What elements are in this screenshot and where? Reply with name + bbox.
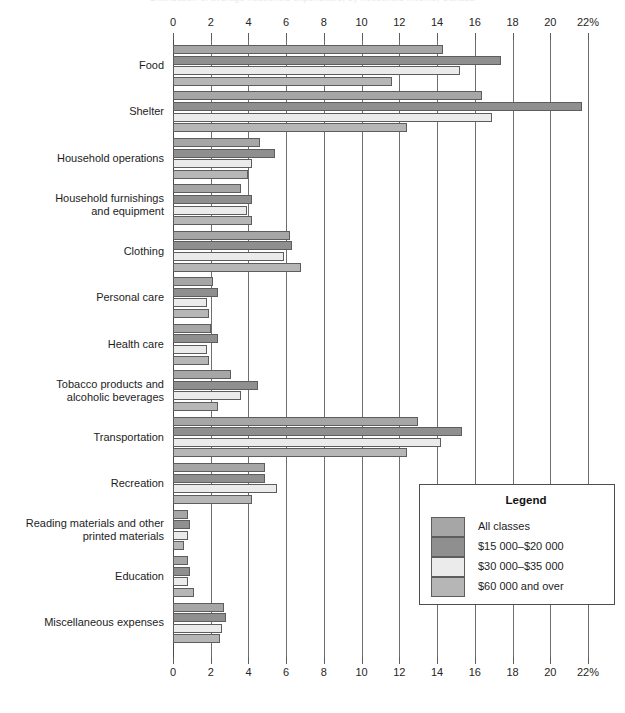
tick-mark-20 — [550, 657, 551, 664]
bar — [173, 463, 265, 472]
bar — [173, 263, 301, 272]
bar-group — [173, 277, 588, 323]
bar-group — [173, 138, 588, 184]
category-label-line: alcoholic beverages — [5, 391, 164, 404]
bar — [173, 324, 211, 333]
bar — [173, 624, 222, 633]
category-label-line: printed materials — [5, 530, 164, 543]
bar — [173, 427, 462, 436]
tick-mark-8 — [324, 657, 325, 664]
bar — [173, 149, 275, 158]
bar — [173, 402, 218, 411]
bar — [173, 113, 492, 122]
bar-group — [173, 603, 588, 649]
bar — [173, 381, 258, 390]
bar-group — [173, 91, 588, 137]
tick-mark-18 — [513, 657, 514, 664]
legend-label: $30 000–$35 000 — [478, 560, 564, 572]
category-label: Shelter — [5, 105, 173, 118]
category-label: Personal care — [5, 291, 173, 304]
bar — [173, 417, 418, 426]
tick-label: 20 — [530, 16, 570, 28]
category-label-line: Miscellaneous expenses — [5, 616, 164, 629]
category-label-line: and equipment — [5, 205, 164, 218]
tick-mark-10 — [362, 657, 363, 664]
bar — [173, 391, 241, 400]
legend-label: $60 000 and over — [478, 580, 564, 592]
bar — [173, 309, 209, 318]
tick-label: 12 — [379, 16, 419, 28]
tick-label: 18 — [493, 666, 533, 678]
bar — [173, 541, 184, 550]
bar — [173, 91, 482, 100]
tick-mark-16 — [475, 33, 476, 40]
tick-label: 12 — [379, 666, 419, 678]
chart-page: Distribution of average household expend… — [0, 0, 625, 713]
bar — [173, 370, 231, 379]
bar-group — [173, 370, 588, 416]
category-label-line: Personal care — [5, 291, 164, 304]
bar — [173, 66, 460, 75]
top-axis: 0246810121416182022% — [173, 16, 588, 40]
bar — [173, 170, 248, 179]
tick-label: 0 — [153, 16, 193, 28]
bar-group — [173, 184, 588, 230]
bar — [173, 345, 207, 354]
bar — [173, 77, 392, 86]
legend-label: $15 000–$20 000 — [478, 540, 564, 552]
category-label: Education — [5, 570, 173, 583]
legend-box: Legend All classes$15 000–$20 000$30 000… — [419, 484, 615, 605]
bar — [173, 159, 252, 168]
category-label: Tobacco products andalcoholic beverages — [5, 378, 173, 404]
category-label: Reading materials and otherprinted mater… — [5, 517, 173, 543]
tick-mark-6 — [286, 33, 287, 40]
tick-label: 10 — [342, 666, 382, 678]
tick-mark-8 — [324, 33, 325, 40]
legend-title: Legend — [420, 494, 614, 506]
tick-mark-2 — [211, 33, 212, 40]
tick-mark-12 — [399, 657, 400, 664]
bar — [173, 484, 277, 493]
tick-label: 2 — [191, 16, 231, 28]
bar — [173, 102, 582, 111]
bottom-axis: 0246810121416182022% — [173, 657, 588, 681]
bar — [173, 438, 441, 447]
tick-label: 4 — [228, 666, 268, 678]
tick-label: 22% — [568, 16, 608, 28]
category-label-line: Reading materials and other — [5, 517, 164, 530]
tick-mark-14 — [437, 33, 438, 40]
bar — [173, 603, 224, 612]
bar — [173, 520, 190, 529]
tick-mark-4 — [248, 33, 249, 40]
tick-label: 0 — [153, 666, 193, 678]
category-label: Food — [5, 59, 173, 72]
category-label: Household operations — [5, 152, 173, 165]
tick-label: 6 — [266, 666, 306, 678]
tick-label: 16 — [455, 666, 495, 678]
legend-swatch — [431, 577, 465, 597]
tick-label: 16 — [455, 16, 495, 28]
bar-group — [173, 231, 588, 277]
category-label: Clothing — [5, 245, 173, 258]
tick-mark-18 — [513, 33, 514, 40]
bar — [173, 588, 194, 597]
tick-label: 6 — [266, 16, 306, 28]
category-label: Miscellaneous expenses — [5, 616, 173, 629]
bar — [173, 567, 190, 576]
category-label-line: Transportation — [5, 431, 164, 444]
bar — [173, 334, 218, 343]
tick-mark-16 — [475, 657, 476, 664]
bar — [173, 277, 213, 286]
tick-label: 14 — [417, 666, 457, 678]
tick-mark-4 — [248, 657, 249, 664]
bar — [173, 138, 260, 147]
tick-mark-22 — [588, 33, 589, 40]
tick-label: 4 — [228, 16, 268, 28]
bar — [173, 123, 407, 132]
bar — [173, 298, 207, 307]
category-label-line: Food — [5, 59, 164, 72]
bar — [173, 495, 252, 504]
tick-mark-20 — [550, 33, 551, 40]
bar — [173, 45, 443, 54]
category-label-line: Household operations — [5, 152, 164, 165]
